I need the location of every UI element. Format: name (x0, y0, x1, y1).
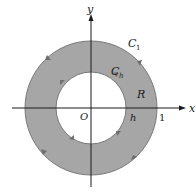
region-label: R (136, 88, 145, 101)
x-axis-arrow-icon (179, 106, 186, 111)
annulus-diagram: y x O C 1 C h R h 1 (0, 0, 196, 193)
svg-text:h: h (119, 72, 124, 80)
svg-text:1: 1 (136, 44, 140, 52)
y-axis-label: y (86, 3, 94, 16)
inner-radius-label: h (130, 112, 136, 123)
outer-radius-label: 1 (159, 112, 165, 123)
x-axis-label: x (189, 102, 196, 115)
outer-curve-label: C 1 (128, 37, 140, 52)
origin-label: O (80, 111, 88, 122)
